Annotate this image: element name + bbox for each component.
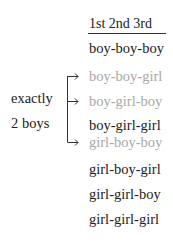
outcome-row: girl-girl-girl <box>89 211 159 228</box>
outcome-row-highlighted: girl-boy-boy <box>89 134 162 151</box>
outcome-row: girl-girl-boy <box>89 186 161 203</box>
outcome-row-highlighted: boy-boy-girl <box>89 68 162 85</box>
outcome-row: boy-girl-girl <box>89 117 161 134</box>
outcome-row: girl-boy-girl <box>89 161 161 178</box>
outcome-row: boy-boy-boy <box>89 40 164 57</box>
outcome-row-highlighted: boy-girl-boy <box>89 93 162 110</box>
